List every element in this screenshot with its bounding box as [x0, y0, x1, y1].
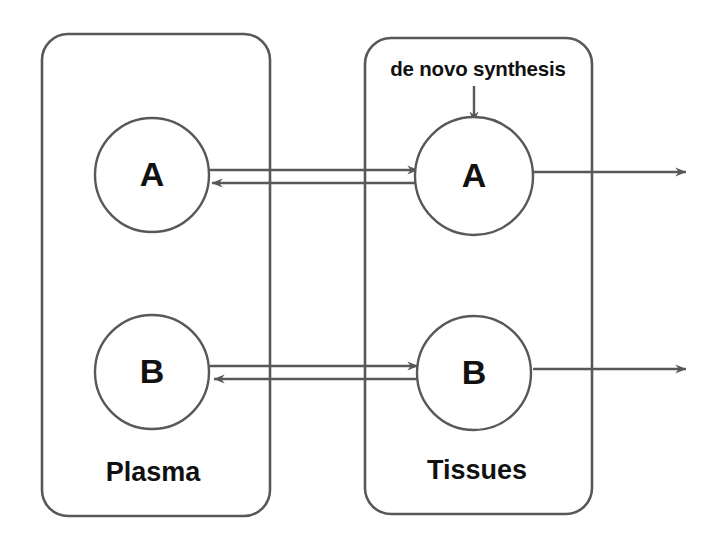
node-label-plasma-a: A: [140, 155, 165, 193]
compartment-box-tissues: [365, 38, 592, 514]
diagram-canvas: A A B B de novo synthesis Plasma Tissues: [0, 0, 711, 536]
node-label-tissues-b: B: [462, 353, 487, 391]
compartment-label-tissues: Tissues: [427, 455, 527, 485]
annotation-label-de-novo-synthesis: de novo synthesis: [390, 57, 565, 80]
diagram-svg: A A B B de novo synthesis Plasma Tissues: [0, 0, 711, 536]
compartment-box-plasma: [42, 34, 270, 516]
node-label-tissues-a: A: [462, 156, 487, 194]
compartment-label-plasma: Plasma: [106, 457, 202, 487]
node-label-plasma-b: B: [140, 352, 165, 390]
